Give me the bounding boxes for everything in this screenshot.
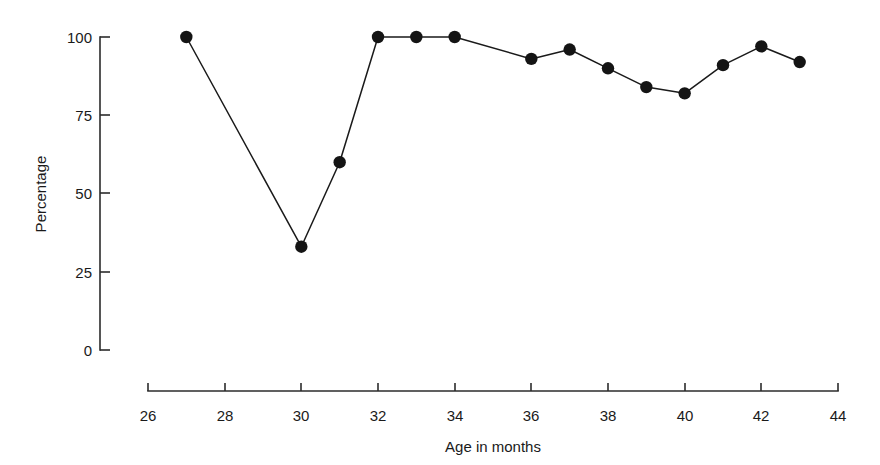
data-point xyxy=(295,241,307,253)
y-tick-label-75: 75 xyxy=(75,107,92,124)
y-tick-label-0: 0 xyxy=(84,342,92,359)
data-point xyxy=(563,43,575,55)
data-point xyxy=(793,56,805,68)
x-tick-label-36: 36 xyxy=(523,407,540,424)
data-point xyxy=(755,40,767,52)
x-tick-label-34: 34 xyxy=(447,407,464,424)
data-point xyxy=(333,156,345,168)
y-axis-title: Percentage xyxy=(32,156,49,233)
x-tick-label-38: 38 xyxy=(600,407,617,424)
data-point xyxy=(410,31,422,43)
x-tick-label-32: 32 xyxy=(370,407,387,424)
x-tick-label-30: 30 xyxy=(293,407,310,424)
data-point xyxy=(372,31,384,43)
x-tick-label-40: 40 xyxy=(677,407,694,424)
x-tick-label-28: 28 xyxy=(217,407,234,424)
x-tick-label-26: 26 xyxy=(140,407,157,424)
data-point xyxy=(602,62,614,74)
data-point xyxy=(448,31,460,43)
x-tick-label-42: 42 xyxy=(753,407,770,424)
chart-background xyxy=(0,0,880,465)
line-chart-figure: 100 75 50 25 0 Percentage 26 28 30 32 34… xyxy=(0,0,880,465)
data-point xyxy=(180,31,192,43)
data-point xyxy=(640,81,652,93)
x-tick-label-44: 44 xyxy=(830,407,847,424)
data-point xyxy=(678,87,690,99)
y-tick-label-25: 25 xyxy=(75,264,92,281)
data-point xyxy=(717,59,729,71)
y-tick-label-50: 50 xyxy=(75,185,92,202)
data-point xyxy=(525,53,537,65)
y-tick-label-100: 100 xyxy=(67,29,92,46)
x-axis-title: Age in months xyxy=(445,438,541,455)
